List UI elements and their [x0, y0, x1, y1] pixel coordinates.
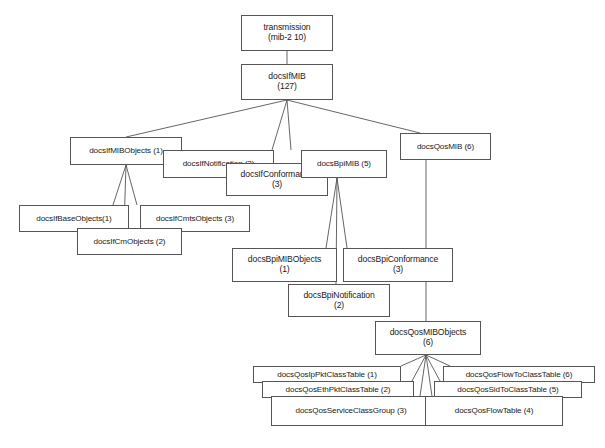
mib-tree-diagram: transmission(mib-2 10)docsIfMIB(127)docs… — [0, 0, 605, 448]
edge-docsQosMIBObjects-to-docsQosFlowToClassTable — [426, 355, 450, 366]
node-docsIfMIB[interactable]: docsIfMIB(127) — [241, 64, 333, 100]
node-label-primary: docsQosMIB (6) — [417, 142, 474, 151]
node-docsIfCmObjects[interactable]: docsIfCmObjects (2) — [77, 228, 182, 255]
node-label-primary: docsQosEthPktClassTable (2) — [286, 385, 391, 394]
node-label-oid: (127) — [277, 82, 297, 92]
edge-docsIfMIB-to-docsIfMIBObjects — [126, 100, 287, 137]
node-docsQosServiceClassGroup[interactable]: docsQosServiceClassGroup (3) — [271, 396, 431, 426]
node-label-primary: docsIfCmtsObjects (3) — [156, 214, 234, 223]
node-docsBpiConformance[interactable]: docsBpiConformance(3) — [343, 248, 453, 282]
node-docsQosFlowTable[interactable]: docsQosFlowTable (4) — [425, 396, 563, 426]
edge-docsIfMIB-to-docsBpiMIB — [287, 100, 291, 150]
node-label-oid: (3) — [272, 180, 282, 190]
node-label-oid: (6) — [423, 338, 433, 348]
node-label-primary: docsIfBaseObjects(1) — [36, 214, 111, 223]
node-label-primary: docsQosServiceClassGroup (3) — [295, 406, 406, 415]
node-label-primary: docsIfMIBObjects (1) — [89, 146, 163, 155]
node-docsBpiMIBObjects[interactable]: docsBpiMIBObjects(1) — [232, 248, 337, 282]
node-label-oid: (2) — [334, 301, 344, 311]
node-label-primary: docsQosFlowTable (4) — [455, 406, 534, 415]
node-docsQosMIB[interactable]: docsQosMIB (6) — [400, 133, 491, 160]
node-docsQosMIBObjects[interactable]: docsQosMIBObjects(6) — [375, 321, 481, 355]
node-label-oid: (3) — [393, 265, 403, 275]
node-transmission[interactable]: transmission(mib-2 10) — [241, 15, 333, 51]
node-label-oid: (1) — [279, 265, 289, 275]
node-label-primary: docsQosFlowToClassTable (6) — [466, 370, 573, 379]
node-label-primary: docsBpiMIB (5) — [317, 159, 371, 168]
node-label-primary: docsIfCmObjects (2) — [94, 237, 166, 246]
node-label-primary: docsQosIpPktClassTable (1) — [277, 370, 377, 379]
node-label-oid: (mib-2 10) — [268, 33, 306, 43]
edge-docsIfMIBObjects-to-docsIfCmtsObjects — [126, 165, 137, 205]
node-docsBpiNotification[interactable]: docsBpiNotification(2) — [288, 284, 390, 317]
edge-docsQosMIBObjects-to-docsQosIpPktClassTable — [401, 355, 426, 366]
node-label-primary: docsQosSidToClassTable (5) — [457, 385, 558, 394]
edge-docsIfMIB-to-docsIfNotification — [272, 100, 287, 150]
node-docsBpiMIB[interactable]: docsBpiMIB (5) — [301, 150, 387, 178]
edge-docsIfMIB-to-docsQosMIB — [287, 100, 420, 133]
edge-docsIfMIBObjects-to-docsIfBaseObjects — [113, 165, 126, 205]
edge-docsBpiMIB-to-docsBpiConformance — [337, 178, 347, 248]
